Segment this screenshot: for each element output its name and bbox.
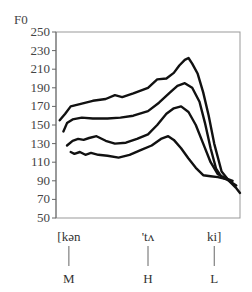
y-tick-label: 190 xyxy=(31,80,51,95)
tone-label: M xyxy=(63,271,75,286)
y-tick-label: 230 xyxy=(31,43,51,58)
y-axis-label: F0 xyxy=(14,12,28,27)
y-tick-label: 90 xyxy=(37,173,50,188)
y-tick-label: 150 xyxy=(31,117,51,132)
y-tick-label: 250 xyxy=(31,24,51,39)
y-tick-label: 170 xyxy=(31,98,51,113)
y-tick-label: 130 xyxy=(31,136,51,151)
syllable-label: ki] xyxy=(207,229,221,244)
tone-label: H xyxy=(143,271,152,286)
segment-labels: [kənM'tʌHki]L xyxy=(57,229,221,286)
plot-frame xyxy=(56,32,240,218)
y-ticks: 507090110130150170190210230250 xyxy=(31,24,57,225)
y-tick-label: 110 xyxy=(31,154,50,169)
f0-contour-chart: F0 507090110130150170190210230250 [kənM'… xyxy=(0,0,252,292)
tone-label: L xyxy=(210,271,218,286)
y-tick-label: 70 xyxy=(37,191,50,206)
series-line-contour-2 xyxy=(63,83,236,185)
series-line-contour-1 xyxy=(60,58,240,193)
y-tick-label: 50 xyxy=(37,210,50,225)
syllable-label: [kən xyxy=(57,229,81,244)
series-lines xyxy=(60,58,240,193)
syllable-label: 'tʌ xyxy=(142,229,155,244)
y-tick-label: 210 xyxy=(31,61,51,76)
